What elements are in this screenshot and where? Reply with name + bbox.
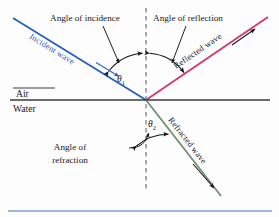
- reflected-ray: [146, 17, 268, 100]
- theta1-label: θ1: [117, 74, 125, 86]
- figure-canvas: Angle of incidence Angle of reflection A…: [0, 0, 279, 217]
- medium-air-label: Air: [16, 88, 30, 99]
- refracted-wave-label: Refracted wave: [166, 115, 209, 166]
- angle-of-refraction-label-line2: refraction: [52, 155, 88, 165]
- reflected-wave-direction-arrow: [232, 29, 255, 45]
- theta1-arc: [109, 53, 143, 71]
- medium-water-label: Water: [13, 103, 36, 114]
- angle-of-incidence-leader: [103, 26, 119, 63]
- angle-of-refraction-label-line1: Angle of: [54, 142, 87, 152]
- theta2-label: θ2: [148, 119, 156, 131]
- incident-wave-label: Incident wave: [28, 31, 77, 66]
- angle-of-reflection-label: Angle of reflection: [153, 13, 223, 23]
- refracted-wave-direction-arrow: [193, 164, 214, 188]
- ray-diagram-svg: Angle of incidence Angle of reflection A…: [0, 0, 279, 217]
- refracted-ray: [146, 100, 221, 196]
- angle-of-incidence-label: Angle of incidence: [50, 13, 120, 23]
